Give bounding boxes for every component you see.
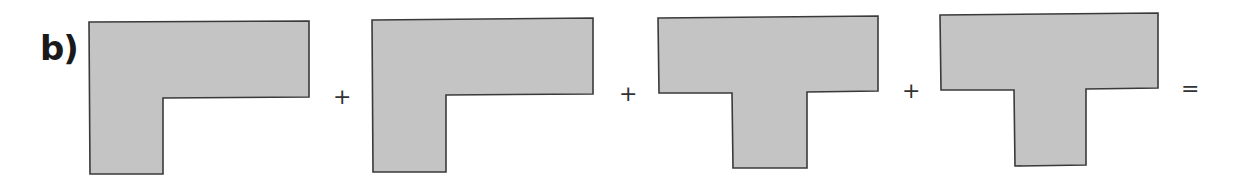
plus-sign-1: + xyxy=(333,86,351,108)
t-shape-1 xyxy=(658,16,878,168)
plus-sign-3: + xyxy=(902,80,920,102)
plus-sign-2: + xyxy=(619,83,637,105)
equals-sign: = xyxy=(1181,78,1199,100)
l-shape-2 xyxy=(372,18,593,172)
l-shape-1 xyxy=(89,21,309,174)
t-shape-2 xyxy=(940,13,1158,166)
